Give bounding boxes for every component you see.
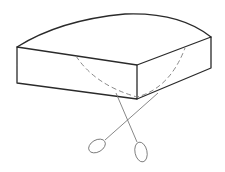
- diagram-canvas: [0, 0, 225, 172]
- probe-right-line: [116, 93, 137, 142]
- curved-top-arc: [17, 14, 211, 47]
- front-face: [17, 47, 137, 99]
- probe-left-ellipse: [86, 136, 108, 155]
- probe-right-ellipse: [133, 141, 149, 163]
- block-diagram: [0, 0, 225, 172]
- probe-left-line: [105, 93, 158, 140]
- right-face: [137, 37, 211, 99]
- hidden-curve: [76, 48, 185, 97]
